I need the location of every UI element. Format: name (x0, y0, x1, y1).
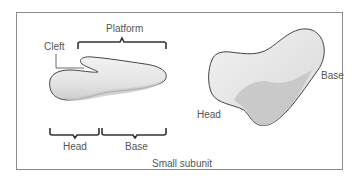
small-subunit-front-view (209, 29, 325, 126)
head-base-brackets (50, 128, 166, 138)
diagram-graphics (0, 0, 361, 181)
small-subunit-side-view (50, 57, 167, 101)
label-base-left: Base (125, 142, 148, 152)
label-cleft: Cleft (44, 42, 65, 52)
label-platform: Platform (106, 24, 143, 34)
label-head-left: Head (63, 142, 87, 152)
platform-bracket (78, 38, 166, 49)
label-head-right: Head (197, 110, 221, 120)
caption: Small subunit (152, 159, 212, 169)
label-base-right: Base (321, 71, 344, 81)
cleft-leader (56, 54, 84, 68)
